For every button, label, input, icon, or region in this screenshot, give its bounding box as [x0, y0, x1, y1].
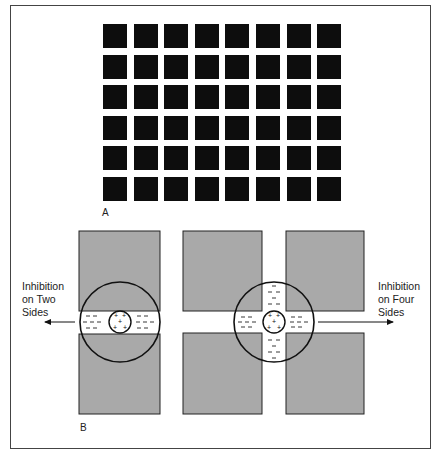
- left-annotation: Inhibition on Two Sides: [22, 280, 64, 319]
- svg-text:+: +: [277, 324, 281, 331]
- panel-b-label: B: [80, 422, 87, 433]
- panel-b-diagram: ++ + ++ ++ + ++: [0, 0, 442, 462]
- svg-text:+: +: [118, 318, 122, 325]
- right-annotation-line-2: on Four: [378, 293, 420, 306]
- left-annotation-line-3: Sides: [22, 306, 64, 319]
- four-sided-inhibition-diagram: ++ + ++: [183, 231, 393, 414]
- two-sided-inhibition-diagram: ++ + ++: [45, 231, 160, 414]
- svg-text:+: +: [122, 312, 126, 319]
- svg-text:+: +: [272, 318, 276, 325]
- right-annotation-line-3: Sides: [378, 306, 420, 319]
- svg-text:+: +: [123, 324, 127, 331]
- svg-text:+: +: [267, 324, 271, 331]
- left-annotation-line-2: on Two: [22, 293, 64, 306]
- right-annotation: Inhibition on Four Sides: [378, 280, 420, 319]
- left-annotation-line-1: Inhibition: [22, 280, 64, 293]
- right-annotation-line-1: Inhibition: [378, 280, 420, 293]
- svg-text:+: +: [113, 324, 117, 331]
- svg-text:+: +: [276, 312, 280, 319]
